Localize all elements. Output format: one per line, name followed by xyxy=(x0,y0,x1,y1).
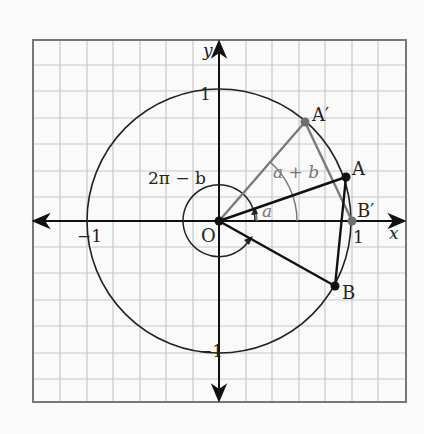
segment-A-B xyxy=(335,177,346,286)
label-angle-two-pi-minus-b: 2π − b xyxy=(148,170,206,187)
point-A xyxy=(342,173,351,182)
label-angle-a-plus-b: a + b xyxy=(273,164,319,181)
tick-label-y-1: 1 xyxy=(200,86,211,103)
label-point-A-prime: A′ xyxy=(312,106,329,124)
point-O xyxy=(215,217,224,226)
tick-label-x-1: 1 xyxy=(353,229,364,246)
label-point-B-prime: B′ xyxy=(357,202,374,220)
x-axis-label: x xyxy=(389,225,399,242)
label-point-B: B xyxy=(342,284,355,302)
tick-label-x-neg-1: −1 xyxy=(77,228,102,245)
y-axis-label: y xyxy=(203,42,213,59)
label-origin-O: O xyxy=(201,227,216,245)
label-point-A: A xyxy=(352,160,365,178)
diagram-canvas: y x 1 −1 −1 1 O A A′ B′ B a + b a 2π − b xyxy=(0,0,424,434)
tick-label-y-neg-1: −1 xyxy=(198,343,223,360)
point-B xyxy=(331,282,340,291)
point-A-prime xyxy=(301,118,310,127)
point-B-prime xyxy=(348,217,357,226)
label-angle-a: a xyxy=(262,203,272,220)
segment-O-B xyxy=(219,221,335,286)
